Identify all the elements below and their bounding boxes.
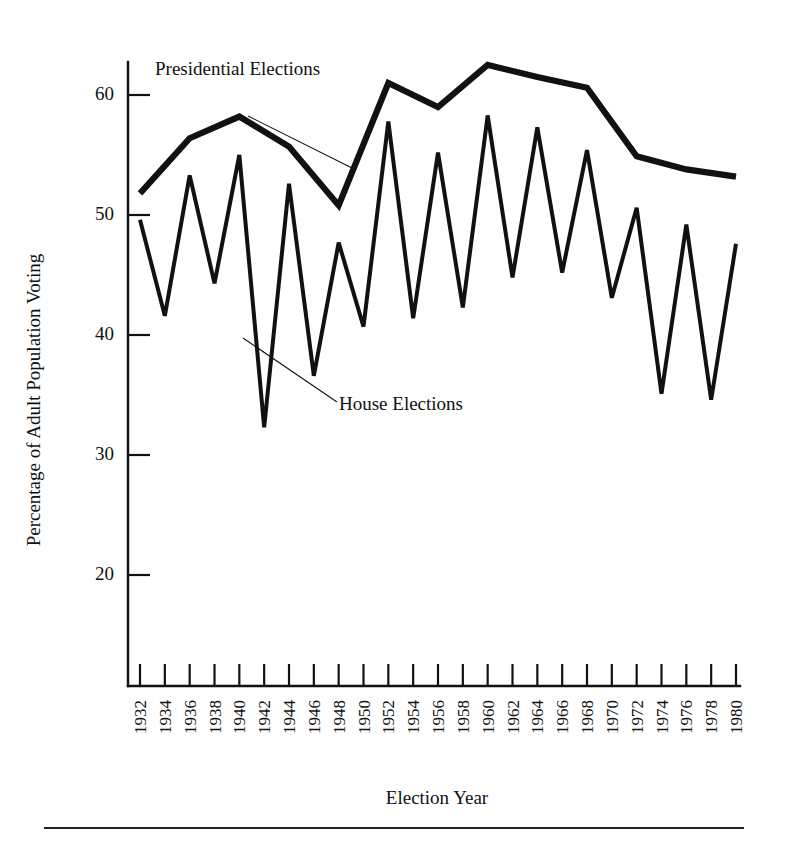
axes-group (128, 62, 740, 686)
x-axis-tick-label: 1956 (429, 700, 448, 734)
y-axis-title: Percentage of Adult Population Voting (23, 253, 44, 546)
x-axis-tick-label: 1952 (379, 700, 398, 734)
x-axis-title: Election Year (386, 787, 489, 808)
x-axis-tick-label: 1942 (255, 700, 274, 734)
house-elections-label: House Elections (339, 393, 463, 414)
presidential-elections-label: Presidential Elections (155, 58, 320, 79)
presidential-elections-line (140, 65, 736, 205)
x-axis-tick-label: 1960 (479, 700, 498, 734)
y-axis-tick-label: 30 (95, 443, 114, 464)
x-axis-tick-label: 1954 (404, 700, 423, 735)
y-axis-tick-label: 50 (95, 203, 114, 224)
figure-container: Presidential ElectionsHouse Elections 20… (0, 0, 789, 859)
x-axis-tick-label: 1948 (330, 700, 349, 734)
x-axis-tick-label: 1976 (677, 700, 696, 734)
labels-group: 2030405060193219341936193819401942194419… (23, 83, 746, 808)
x-axis-tick-label: 1962 (504, 700, 523, 734)
x-axis-tick-label: 1950 (355, 700, 374, 734)
y-axis-tick-label: 20 (95, 563, 114, 584)
x-axis-tick-label: 1938 (206, 700, 225, 734)
y-axis-tick-label: 40 (95, 323, 114, 344)
footer-rule (44, 827, 744, 829)
x-axis-tick-label: 1966 (553, 700, 572, 734)
x-axis-tick-label: 1970 (603, 700, 622, 734)
line-chart-svg: Presidential ElectionsHouse Elections 20… (0, 0, 789, 859)
series-group (140, 65, 736, 427)
x-axis-tick-label: 1980 (727, 700, 746, 734)
x-axis-tick-label: 1936 (181, 700, 200, 734)
x-axis-tick-label: 1974 (653, 700, 672, 735)
house-elections-line (140, 115, 736, 427)
x-axis-tick-label: 1972 (628, 700, 647, 734)
x-axis-tick-label: 1978 (702, 700, 721, 734)
x-axis-tick-label: 1964 (528, 700, 547, 735)
x-axis-tick-label: 1968 (578, 700, 597, 734)
x-axis-tick-label: 1934 (156, 700, 175, 735)
x-axis-tick-label: 1946 (305, 700, 324, 734)
x-axis-tick-label: 1940 (230, 700, 249, 734)
x-axis-tick-label: 1932 (131, 700, 150, 734)
x-axis-tick-label: 1944 (280, 700, 299, 735)
y-axis-tick-label: 60 (95, 83, 114, 104)
annotations-group: Presidential ElectionsHouse Elections (155, 58, 463, 414)
x-axis-tick-label: 1958 (454, 700, 473, 734)
